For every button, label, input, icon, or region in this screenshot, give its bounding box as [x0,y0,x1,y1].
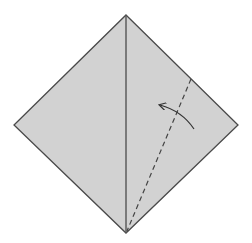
diagram-svg [0,0,252,243]
origami-diagram [0,0,252,243]
